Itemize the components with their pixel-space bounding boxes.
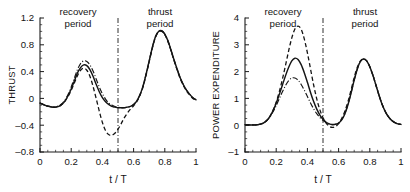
thrust-plot-svg: –0.8–0.400.40.81.2 00.20.40.60.81 t / T … (0, 0, 205, 192)
thrust-x-ticklabels: 00.20.40.60.81 (37, 156, 198, 167)
y-tick-label: 3 (234, 39, 239, 50)
x-tick-label: 0 (242, 156, 247, 167)
thrust-x-axis-title: t / T (109, 174, 126, 185)
power-x-axis-title: t / T (314, 174, 331, 185)
x-tick-label: 0.6 (127, 156, 140, 167)
thrust-period-label-line1: thrust (148, 6, 173, 17)
power-y-ticks (245, 18, 249, 152)
recovery-period-label-line1: recovery (59, 6, 96, 17)
power-plot-svg: –101234 00.20.40.60.81 t / T POWER EXPEN… (205, 0, 410, 192)
thrust-period-label-line1: thrust (353, 6, 378, 17)
power-y-axis-title: POWER EXPENDITURE (210, 31, 221, 139)
thrust-y-axis-title: THRUST (6, 65, 17, 104)
power-x-ticklabels: 00.20.40.60.81 (242, 156, 403, 167)
y-tick-label: 0 (29, 93, 34, 104)
x-tick-label: 0.6 (332, 156, 345, 167)
y-tick-label: –0.4 (15, 120, 34, 131)
y-tick-label: 0.8 (21, 39, 34, 50)
recovery-period-label-line1: recovery (264, 6, 301, 17)
y-tick-label: 0.4 (21, 66, 35, 77)
x-tick-label: 0.2 (270, 156, 283, 167)
y-tick-label: –0.8 (15, 146, 34, 157)
x-tick-label: 0.8 (363, 156, 376, 167)
recovery-period-label-line2: period (65, 18, 92, 29)
x-tick-label: 0.8 (158, 156, 171, 167)
x-tick-label: 1 (193, 156, 198, 167)
x-tick-label: 0.2 (65, 156, 78, 167)
y-tick-label: 0 (234, 120, 239, 131)
recovery-period-label-line2: period (270, 18, 297, 29)
thrust-period-label-line2: period (147, 18, 174, 29)
y-tick-label: 1.2 (21, 12, 34, 23)
thrust-y-ticklabels: –0.8–0.400.40.81.2 (15, 12, 34, 157)
y-tick-label: 4 (234, 12, 240, 23)
thrust-y-ticks (40, 18, 44, 152)
figure-container: –0.8–0.400.40.81.2 00.20.40.60.81 t / T … (0, 0, 410, 192)
thrust-panel: –0.8–0.400.40.81.2 00.20.40.60.81 t / T … (0, 0, 205, 192)
power-panel: –101234 00.20.40.60.81 t / T POWER EXPEN… (205, 0, 410, 192)
x-tick-label: 0.4 (301, 156, 315, 167)
x-tick-label: 0 (37, 156, 42, 167)
y-tick-label: –1 (228, 146, 239, 157)
x-tick-label: 1 (398, 156, 403, 167)
thrust-period-label-line2: period (352, 18, 379, 29)
x-tick-label: 0.4 (96, 156, 110, 167)
power-y-ticklabels: –101234 (228, 12, 239, 157)
y-tick-label: 1 (234, 93, 239, 104)
y-tick-label: 2 (234, 66, 239, 77)
